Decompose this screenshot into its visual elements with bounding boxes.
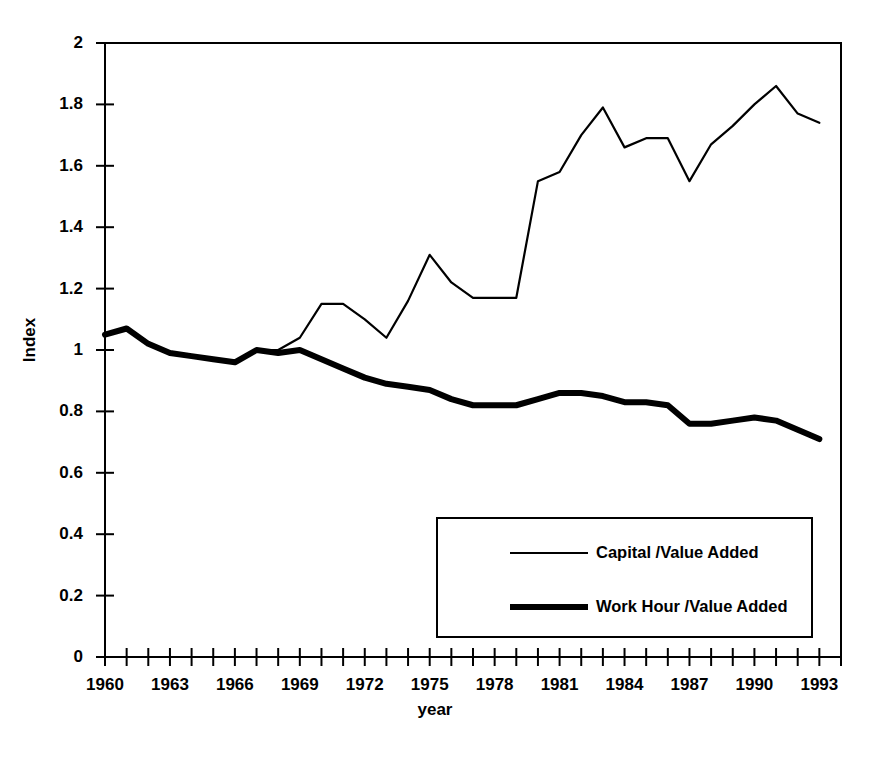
legend-box — [437, 518, 812, 637]
y-tick-label: 0.4 — [0, 524, 83, 544]
series-line-work-hour — [105, 329, 819, 440]
y-tick-label: 1.8 — [0, 94, 83, 114]
series-line-capital — [105, 86, 819, 362]
y-tick-label: 1.6 — [0, 156, 83, 176]
y-tick-label: 2 — [0, 33, 83, 53]
y-axis-title: Index — [20, 318, 40, 362]
y-tick-label: 1.4 — [0, 217, 83, 237]
line-chart — [0, 0, 870, 759]
y-tick-label: 0.6 — [0, 463, 83, 483]
y-tick-label: 1.2 — [0, 279, 83, 299]
y-tick-label: 0.2 — [0, 586, 83, 606]
x-tick-label: 1993 — [774, 675, 864, 695]
y-tick-label: 0.8 — [0, 401, 83, 421]
y-tick-label: 0 — [0, 647, 83, 667]
legend-label-work-hour: Work Hour /Value Added — [596, 597, 788, 616]
legend-label-capital: Capital /Value Added — [596, 543, 759, 562]
y-tick-label: 1 — [0, 340, 83, 360]
x-axis-title: year — [0, 700, 870, 720]
data-series-layer — [105, 86, 819, 439]
chart-container: 00.20.40.60.811.21.41.61.82 196019631966… — [0, 0, 870, 759]
